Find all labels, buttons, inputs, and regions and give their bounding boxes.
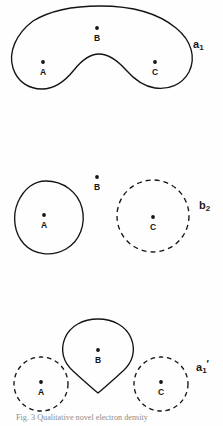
contour-solid-around-A	[15, 181, 84, 254]
panel-label-a1: a1	[193, 39, 204, 52]
panel-b2-group: A B C	[15, 175, 189, 254]
atom-marker-a1-A: A	[40, 60, 46, 77]
contour-dashed-around-C	[134, 357, 188, 411]
panel-label-b2-base: b	[199, 199, 206, 211]
panel-a1-group: A B C	[12, 6, 193, 89]
atom-label-C: C	[150, 222, 156, 232]
atom-marker-a1-B: B	[94, 26, 100, 43]
atom-marker-a1p-C: C	[158, 380, 164, 397]
panel-label-b2-subscript: 2	[206, 204, 210, 213]
atom-label-C: C	[158, 387, 164, 397]
panel-a1-prime-group: A B C	[14, 319, 188, 411]
atom-marker-a1p-A: A	[38, 380, 44, 397]
atom-label-A: A	[40, 67, 46, 77]
figure-drawing: A B C A B C	[0, 0, 223, 426]
atom-label-C: C	[152, 67, 158, 77]
atom-label-A: A	[41, 220, 47, 230]
panel-label-a1-prime: a1′	[196, 360, 209, 375]
panel-label-a1p-prime: ′	[207, 359, 209, 370]
figure-container: A B C A B C	[0, 0, 223, 426]
panel-label-a1-subscript: 1	[199, 43, 203, 52]
atom-label-B: B	[94, 182, 100, 192]
atom-label-B: B	[94, 33, 100, 43]
atom-marker-b2-C: C	[150, 215, 156, 232]
contour-dashed-around-A	[14, 357, 68, 411]
atom-label-B: B	[95, 355, 101, 365]
contour-bean-solid	[12, 6, 193, 89]
atom-marker-b2-B: B	[94, 175, 100, 192]
atom-marker-a1-C: C	[152, 60, 158, 77]
atom-marker-b2-A: A	[41, 213, 47, 230]
atom-label-A: A	[38, 387, 44, 397]
atom-marker-a1p-B: B	[95, 348, 101, 365]
figure-caption: Fig. 3 Qualitative novel electron densit…	[16, 413, 212, 423]
panel-label-b2: b2	[199, 200, 210, 213]
